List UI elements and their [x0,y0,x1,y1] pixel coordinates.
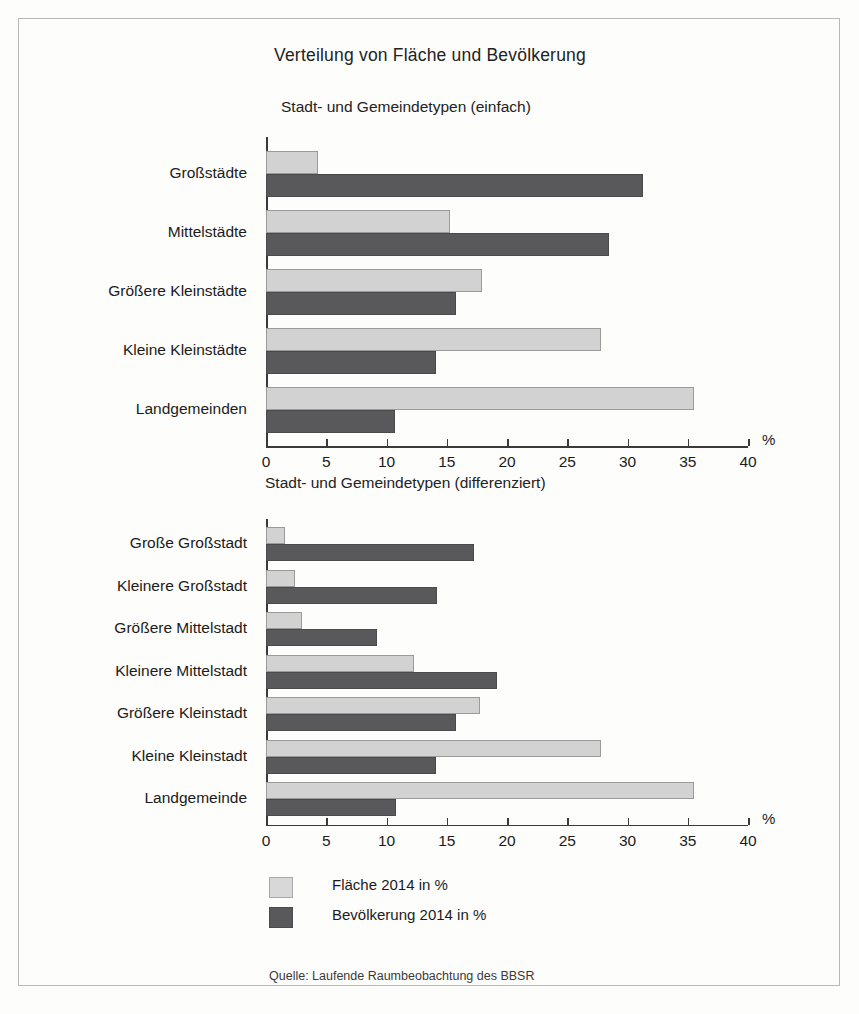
bar-flaeche [266,782,694,799]
bar-flaeche [266,740,601,757]
x-axis-tick [567,818,569,825]
chart-top-category-labels: GroßstädteMittelstädteGrößere Kleinstädt… [57,127,257,437]
x-axis-tick [387,818,389,825]
x-axis-tick-label: 5 [322,453,331,471]
bar-flaeche [266,527,285,544]
bar-flaeche [266,328,601,351]
x-axis-tick [748,439,750,446]
x-axis-tick [628,439,630,446]
bar-flaeche [266,387,694,410]
x-axis-tick [628,818,630,825]
bar-bevoelkerung [266,351,436,374]
x-axis-tick [266,818,268,825]
x-axis-tick-label: 10 [378,832,395,850]
page-title: Verteilung von Fläche und Bevölkerung [19,45,841,66]
x-axis-tick-label: 10 [378,453,395,471]
x-axis-tick [326,818,328,825]
category-label: Große Großstadt [130,534,247,552]
x-axis-tick-label: 40 [739,453,756,471]
bar-bevoelkerung [266,629,377,646]
category-label: Landgemeinde [144,789,247,807]
category-label: Kleinere Mittelstadt [115,662,247,680]
chart-top: GroßstädteMittelstädteGrößere Kleinstädt… [19,127,841,437]
x-axis-tick-label: 35 [679,453,696,471]
bar-bevoelkerung [266,672,497,689]
category-label: Mittelstädte [168,223,247,241]
bar-flaeche [266,570,295,587]
bar-bevoelkerung [266,799,396,816]
x-axis-line [266,446,748,448]
chart-bottom-subtitle: Stadt- und Gemeindetypen (differenziert) [265,474,546,492]
x-axis-tick [688,818,690,825]
source-note: Quelle: Laufende Raumbeobachtung des BBS… [269,969,534,983]
bar-bevoelkerung [266,233,609,256]
legend-label: Bevölkerung 2014 in % [332,906,486,923]
bar-flaeche [266,612,302,629]
x-axis-tick [266,439,268,446]
x-axis-tick [688,439,690,446]
category-label: Größere Kleinstadt [117,704,247,722]
x-axis-tick [326,439,328,446]
bar-flaeche [266,210,450,233]
x-axis-tick-label: 15 [438,832,455,850]
category-label: Größere Kleinstädte [108,282,247,300]
x-axis-tick-label: 25 [559,832,576,850]
figure-frame: Verteilung von Fläche und Bevölkerung St… [18,18,840,986]
bar-bevoelkerung [266,587,437,604]
category-label: Kleinere Großstadt [117,577,247,595]
bar-bevoelkerung [266,714,456,731]
x-axis-tick-label: 0 [262,453,271,471]
x-axis-tick [507,818,509,825]
x-axis-tick [447,818,449,825]
x-axis-tick [387,439,389,446]
x-axis-tick [567,439,569,446]
x-axis-tick-label: 40 [739,832,756,850]
bar-bevoelkerung [266,174,643,197]
x-axis-tick-label: 35 [679,832,696,850]
x-axis-line [266,825,748,827]
legend-swatch-bev [269,907,293,928]
x-axis-tick-label: 25 [559,453,576,471]
category-label: Kleine Kleinstädte [123,341,247,359]
chart-bottom: Große GroßstadtKleinere GroßstadtGrößere… [19,505,841,835]
x-axis-tick-label: 5 [322,832,331,850]
bar-bevoelkerung [266,544,474,561]
x-axis-tick-label: 20 [498,453,515,471]
bar-flaeche [266,269,482,292]
category-label: Kleine Kleinstadt [132,747,247,765]
bar-bevoelkerung [266,292,456,315]
x-axis-tick-label: 15 [438,453,455,471]
x-axis-tick-label: 0 [262,832,271,850]
legend-label: Fläche 2014 in % [332,876,448,893]
x-axis-unit-label: % [762,810,775,827]
category-label: Größere Mittelstadt [114,619,247,637]
category-label: Landgemeinden [136,400,247,418]
bar-flaeche [266,151,318,174]
category-label: Großstädte [169,164,247,182]
x-axis-tick [447,439,449,446]
legend-swatch-flaeche [269,877,293,898]
bar-flaeche [266,697,480,714]
x-axis-tick-label: 20 [498,832,515,850]
x-axis-unit-label: % [762,431,775,448]
chart-top-subtitle: Stadt- und Gemeindetypen (einfach) [281,98,531,116]
bar-bevoelkerung [266,757,436,774]
x-axis-tick [748,818,750,825]
x-axis-tick [507,439,509,446]
bar-flaeche [266,655,414,672]
bar-bevoelkerung [266,410,395,433]
chart-bottom-category-labels: Große GroßstadtKleinere GroßstadtGrößere… [57,505,257,835]
x-axis-tick-label: 30 [619,453,636,471]
x-axis-tick-label: 30 [619,832,636,850]
